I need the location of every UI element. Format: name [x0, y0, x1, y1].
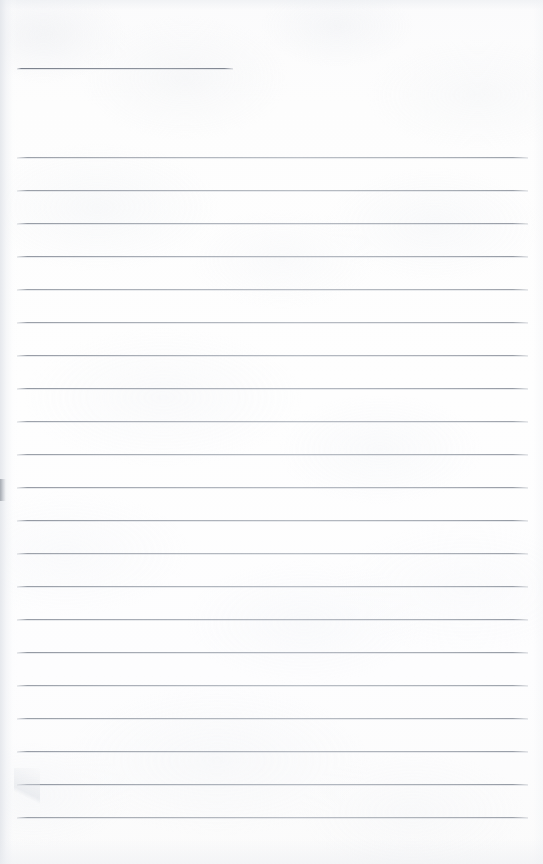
body-rule — [17, 355, 528, 356]
body-rule — [17, 289, 528, 290]
page-edge-shadow-left — [0, 0, 18, 864]
body-rule — [17, 586, 528, 587]
body-rule — [17, 322, 528, 323]
ruled-lines-layer — [0, 0, 543, 864]
paper-crease-artifact — [14, 768, 40, 820]
body-rule — [17, 553, 528, 554]
page-edge-shadow-right — [533, 0, 543, 864]
body-rule — [17, 718, 528, 719]
body-rule — [17, 388, 528, 389]
body-rule — [17, 487, 528, 488]
body-rule — [17, 256, 528, 257]
body-rule — [17, 421, 528, 422]
scanned-page — [0, 0, 543, 864]
body-rule — [17, 784, 528, 785]
header-rule — [17, 68, 233, 69]
body-rule — [17, 751, 528, 752]
body-rule — [17, 619, 528, 620]
body-rule — [17, 817, 528, 818]
scan-smudge-artifact — [0, 479, 7, 501]
body-rule — [17, 190, 528, 191]
body-rule — [17, 454, 528, 455]
body-rule — [17, 685, 528, 686]
body-rule — [17, 652, 528, 653]
body-rule — [17, 520, 528, 521]
body-rule — [17, 157, 528, 158]
page-edge-shadow-top — [0, 0, 543, 10]
page-edge-shadow-bottom — [0, 838, 543, 864]
body-rule — [17, 223, 528, 224]
